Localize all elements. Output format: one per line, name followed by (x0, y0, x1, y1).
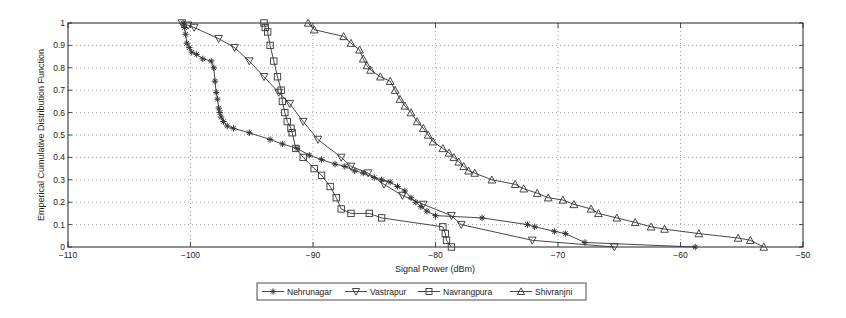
y-tick-label: 0.8 (53, 63, 65, 73)
legend: NehrunagarVastrapurNavrangpuraShivranjni (257, 283, 586, 300)
y-axis-label: Emperical Cumulative Distribution Functi… (36, 49, 46, 221)
y-tick-label: 0.7 (53, 85, 65, 95)
axis-ticks: 00.10.20.30.40.50.60.70.80.91−110−100−90… (53, 18, 810, 260)
legend-label: Shivranjni (535, 287, 572, 297)
x-tick-label: −100 (181, 250, 200, 260)
y-tick-label: 0.1 (53, 220, 65, 230)
chart-canvas: 00.10.20.30.40.50.60.70.80.91−110−100−90… (0, 0, 846, 318)
chart: 00.10.20.30.40.50.60.70.80.91−110−100−90… (0, 0, 846, 318)
y-tick-label: 0.2 (53, 197, 65, 207)
y-tick-label: 0.6 (53, 108, 65, 118)
y-tick-label: 0.5 (53, 130, 65, 140)
legend-label: Vastrapur (370, 287, 406, 297)
x-tick-label: −80 (428, 250, 443, 260)
x-tick-label: −110 (59, 250, 78, 260)
x-tick-label: −90 (306, 250, 321, 260)
legend-label: Nehrunagar (287, 287, 332, 297)
x-tick-label: −60 (673, 250, 688, 260)
series-shivranjni (304, 19, 767, 250)
x-tick-label: −70 (551, 250, 566, 260)
y-tick-label: 0.9 (53, 40, 65, 50)
x-tick-label: −50 (796, 250, 811, 260)
y-tick-label: 1 (60, 18, 65, 28)
y-tick-label: 0.3 (53, 175, 65, 185)
x-axis-label: Signal Power (dBm) (395, 264, 475, 274)
y-tick-label: 0.4 (53, 152, 65, 162)
legend-label: Navrangpura (443, 287, 492, 297)
